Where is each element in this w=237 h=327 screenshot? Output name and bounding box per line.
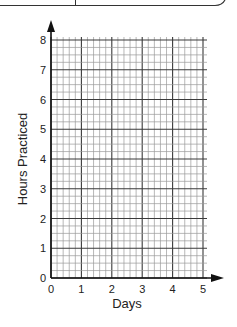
y-tick-label: 7 [40,64,46,76]
y-tick-label: 1 [40,242,46,254]
x-axis-arrow-icon [211,274,224,282]
y-tick-label: 8 [40,34,46,46]
y-tick-label: 6 [40,94,46,106]
top-box-fragment [0,0,225,6]
x-tick-label: 1 [78,283,84,295]
x-tick-label: 5 [200,283,206,295]
y-tick-label: 2 [40,213,46,225]
y-axis-arrow-icon [47,20,55,32]
y-tick-label: 3 [40,183,46,195]
axes [47,20,224,282]
y-tick-label: 4 [40,153,46,165]
y-tick-label: 5 [40,123,46,135]
x-tick-label: 4 [170,283,176,295]
x-axis-label: Days [112,296,142,311]
grid [51,37,207,278]
y-tick-labels: 012345678 [40,34,46,284]
x-tick-label: 2 [109,283,115,295]
x-tick-labels: 012345 [48,283,206,295]
x-tick-label: 3 [139,283,145,295]
y-tick-label: 0 [40,272,46,284]
y-axis-label: Hours Practiced [15,113,30,205]
x-tick-label: 0 [48,283,54,295]
chart-canvas: 012345678 012345 Days Hours Practiced [0,0,237,327]
